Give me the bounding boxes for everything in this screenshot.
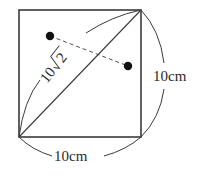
diagonal-arc-upper (86, 10, 141, 33)
bottom-side-arc-left (19, 137, 52, 156)
diagonal-line (19, 10, 141, 137)
dot-right (124, 62, 132, 70)
dot-upper-left (46, 32, 54, 40)
right-side-arc-lower (141, 89, 164, 137)
right-side-arc-upper (141, 10, 164, 63)
bottom-side-label: 10cm (54, 148, 88, 164)
square-diagonal-diagram: 10 2 10cm 10cm (0, 0, 209, 180)
right-side-label: 10cm (153, 68, 187, 84)
bottom-side-arc-right (104, 137, 141, 156)
diagonal-arc-lower (19, 80, 40, 137)
diagonal-label: 10 2 (36, 45, 73, 85)
